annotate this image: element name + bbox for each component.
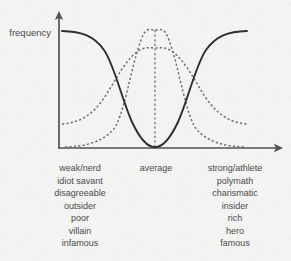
axes-group bbox=[55, 11, 283, 152]
right-label-3: charismatic bbox=[212, 188, 258, 198]
left-label-3: disagreeable bbox=[54, 188, 106, 198]
frequency-distribution-chart: frequency average weak/nerd idiot savant… bbox=[0, 0, 291, 261]
right-label-5: rich bbox=[228, 213, 243, 223]
left-label-2: idiot savant bbox=[57, 176, 103, 186]
left-label-7: infamous bbox=[62, 238, 99, 248]
right-label-1: strong/athlete bbox=[208, 163, 263, 173]
left-label-1: weak/nerd bbox=[58, 163, 101, 173]
y-axis-label: frequency bbox=[9, 27, 51, 38]
right-label-2: polymath bbox=[217, 176, 254, 186]
narrow-normal-curve bbox=[65, 29, 245, 147]
right-label-6: hero bbox=[226, 226, 244, 236]
left-label-group: weak/nerd idiot savant disagreeable outs… bbox=[54, 163, 106, 248]
x-axis-center-label: average bbox=[140, 163, 173, 173]
right-label-group: strong/athlete polymath charismatic insi… bbox=[208, 163, 263, 248]
left-label-6: villain bbox=[69, 226, 92, 236]
right-label-7: famous bbox=[220, 238, 250, 248]
right-label-4: insider bbox=[222, 201, 249, 211]
left-label-4: outsider bbox=[64, 201, 96, 211]
left-label-5: poor bbox=[71, 213, 89, 223]
